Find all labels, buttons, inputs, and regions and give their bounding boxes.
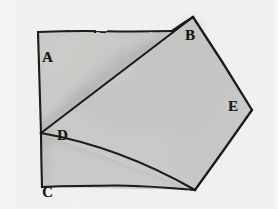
nib-bottom-right: [194, 189, 197, 192]
nib-b: [192, 16, 195, 19]
vertex-label-c: C: [42, 185, 53, 200]
edge-top: [38, 31, 172, 32]
geometric-figure-canvas: A B C D E: [0, 0, 278, 209]
vertex-label-e: E: [228, 99, 238, 114]
nib-d: [40, 132, 43, 135]
vertex-label-b: B: [185, 28, 195, 43]
vertex-label-d: D: [57, 128, 68, 143]
vertex-label-a: A: [42, 50, 53, 65]
edge-left-lower: [41, 133, 42, 187]
